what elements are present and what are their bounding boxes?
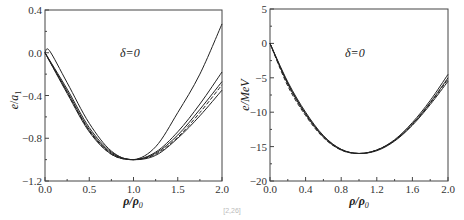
svg-text:0.8: 0.8 — [334, 183, 348, 195]
svg-text:−10: −10 — [250, 106, 268, 118]
svg-text:−0.8: −0.8 — [22, 132, 42, 144]
svg-text:−20: −20 — [250, 175, 268, 187]
left-ticks: 0.00.51.01.52.00.40.0−0.4−0.8−1.2 — [22, 4, 229, 195]
left-plot-frame — [45, 10, 222, 181]
curve-curve5 — [45, 53, 222, 160]
svg-text:0.4: 0.4 — [28, 4, 42, 16]
svg-text:−0.4: −0.4 — [22, 90, 42, 102]
svg-text:−15: −15 — [250, 141, 268, 153]
svg-text:−5: −5 — [255, 72, 267, 84]
right-y-axis-label: e/MeV — [238, 78, 252, 111]
svg-text:2.0: 2.0 — [215, 183, 229, 195]
svg-text:−1.2: −1.2 — [22, 175, 42, 187]
chart-figure: 0.00.51.01.52.00.40.0−0.4−0.8−1.2 δ=0 e/… — [0, 0, 464, 220]
curve-curve1 — [45, 24, 222, 160]
left-curves — [45, 24, 222, 160]
svg-text:5: 5 — [262, 3, 268, 15]
right-panel: 0.00.40.81.21.62.050−5−10−15−20 δ=0 e/Me… — [238, 3, 455, 210]
svg-text:0.4: 0.4 — [299, 183, 313, 195]
svg-text:1.2: 1.2 — [370, 183, 384, 195]
svg-text:1.6: 1.6 — [406, 183, 420, 195]
svg-text:1.5: 1.5 — [171, 183, 185, 195]
svg-text:2.0: 2.0 — [441, 183, 455, 195]
curve-curve3 — [45, 53, 222, 160]
curve-curve4 — [45, 53, 222, 160]
svg-text:0: 0 — [262, 37, 268, 49]
caption-ref: [2,26] — [223, 207, 241, 214]
left-y-axis-label: e/a1 — [7, 91, 23, 110]
figure-caption: [2,26] — [0, 207, 464, 214]
left-panel: 0.00.51.01.52.00.40.0−0.4−0.8−1.2 δ=0 e/… — [7, 4, 229, 210]
right-ticks: 0.00.40.81.21.62.050−5−10−15−20 — [250, 3, 456, 195]
right-annotation: δ=0 — [345, 46, 365, 60]
svg-text:e/a1: e/a1 — [7, 91, 23, 110]
svg-text:0.5: 0.5 — [82, 183, 96, 195]
right-plot-frame — [270, 9, 448, 181]
svg-text:0.0: 0.0 — [28, 47, 42, 59]
curve-curve2 — [45, 53, 222, 160]
left-annotation: δ=0 — [120, 46, 140, 60]
